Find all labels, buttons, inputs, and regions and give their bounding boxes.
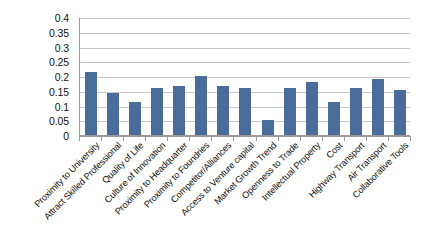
y-tick-label: 0.4 (55, 13, 69, 24)
bar-chart-figure: 00.050.10.150.20.250.30.350.4 Proximity … (0, 0, 424, 246)
y-tick-label: 0.2 (55, 72, 69, 83)
y-tick-label: 0 (63, 131, 69, 142)
bar[interactable] (217, 86, 229, 135)
y-tick-label: 0.3 (55, 42, 69, 53)
bar-slot (389, 18, 411, 135)
bar[interactable] (151, 88, 163, 135)
bar-slot (168, 18, 190, 135)
y-tick-label: 0.05 (49, 116, 69, 127)
bar-series (80, 18, 410, 135)
bar[interactable] (85, 72, 97, 135)
bar-slot (212, 18, 234, 135)
bar[interactable] (394, 90, 406, 135)
bar[interactable] (239, 88, 251, 135)
bar[interactable] (173, 86, 185, 135)
y-axis-tick-labels: 00.050.10.150.20.250.30.350.4 (0, 18, 74, 136)
bar[interactable] (328, 102, 340, 135)
bar-slot (323, 18, 345, 135)
y-tick-label: 0.25 (49, 57, 69, 68)
bar-slot (102, 18, 124, 135)
bar-slot (190, 18, 212, 135)
bar-slot (301, 18, 323, 135)
bar-slot (234, 18, 256, 135)
bar-slot (367, 18, 389, 135)
bar-slot (124, 18, 146, 135)
bar[interactable] (262, 120, 274, 135)
x-axis-category-labels: Proximity to UniversityAttract Skilled P… (0, 141, 424, 246)
bar[interactable] (107, 93, 119, 135)
y-tick-label: 0.1 (55, 101, 69, 112)
bar-slot (345, 18, 367, 135)
bar[interactable] (284, 88, 296, 135)
bar[interactable] (306, 82, 318, 135)
bar[interactable] (129, 102, 141, 135)
bar-slot (146, 18, 168, 135)
y-tick-label: 0.35 (49, 28, 69, 39)
y-tick-label: 0.15 (49, 87, 69, 98)
bar[interactable] (372, 79, 384, 135)
bar-slot (279, 18, 301, 135)
plot-area (79, 18, 410, 136)
bar-slot (257, 18, 279, 135)
bar[interactable] (195, 76, 207, 135)
bar[interactable] (350, 88, 362, 135)
bar-slot (80, 18, 102, 135)
